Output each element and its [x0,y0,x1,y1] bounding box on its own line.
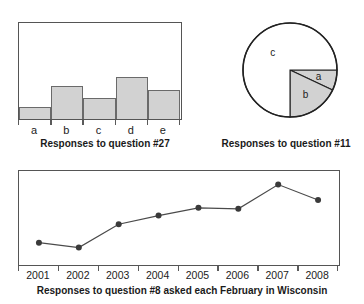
line-point-2005 [195,205,201,211]
line-chart-figure: 20012002200320042005200620072008 Respons… [12,166,352,302]
line-point-2002 [76,245,82,251]
line-point-2003 [116,221,122,227]
bar-a [19,107,51,119]
bar-label-d: d [121,124,141,136]
line-series-path [39,185,318,248]
bar-d [116,77,148,119]
bar-chart-plot-area [18,22,182,120]
line-label-2006: 2006 [217,269,257,281]
line-point-2004 [156,213,162,219]
cropped-text-remnant [0,0,364,2]
line-label-2004: 2004 [138,269,178,281]
bar-label-a: a [24,124,44,136]
line-point-2008 [315,197,321,203]
line-label-2003: 2003 [98,269,138,281]
line-point-2007 [275,182,281,188]
bar-label-c: c [89,124,109,136]
line-chart-caption: Responses to question #8 asked each Febr… [12,285,352,296]
line-label-2005: 2005 [177,269,217,281]
line-label-2002: 2002 [58,269,98,281]
line-chart-graphic [19,171,338,264]
line-point-2001 [36,240,42,246]
bar-e [148,90,180,119]
line-chart-plot-area [18,170,340,266]
line-label-2007: 2007 [257,269,297,281]
pie-chart-graphic: abc [240,20,340,120]
bar-label-b: b [56,124,76,136]
bar-chart-figure: abcde Responses to question #27 [12,18,198,154]
line-label-2001: 2001 [18,269,58,281]
pie-chart-figure: abc Responses to question #11 [212,18,360,154]
bar-label-e: e [153,124,173,136]
pie-chart-caption: Responses to question #11 [212,138,360,149]
line-label-2008: 2008 [297,269,337,281]
bar-chart-caption: Responses to question #27 [12,138,198,149]
pie-label-c: c [270,47,275,58]
bar-b [51,86,83,119]
pie-label-b: b [303,89,309,100]
line-point-2006 [235,206,241,212]
bar-c [83,98,115,119]
line-chart-year-labels: 20012002200320042005200620072008 [18,269,340,285]
pie-label-a: a [316,71,322,82]
